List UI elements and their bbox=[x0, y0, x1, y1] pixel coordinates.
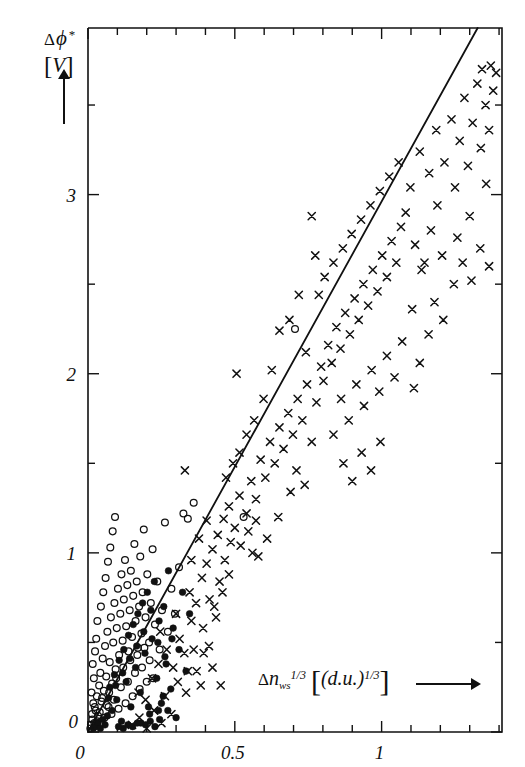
data-point bbox=[315, 291, 322, 298]
data-point bbox=[360, 281, 367, 288]
data-point bbox=[345, 417, 352, 424]
data-point bbox=[147, 600, 154, 607]
data-point bbox=[168, 585, 175, 592]
data-point bbox=[461, 94, 468, 101]
data-point bbox=[155, 639, 162, 646]
data-point bbox=[260, 395, 267, 402]
data-point bbox=[441, 159, 448, 166]
delta-glyph: Δ bbox=[258, 670, 269, 689]
data-point bbox=[147, 718, 154, 725]
data-point bbox=[425, 331, 432, 338]
series-cross bbox=[128, 62, 499, 732]
data-point bbox=[214, 531, 221, 538]
data-point bbox=[137, 553, 144, 560]
data-point bbox=[140, 628, 147, 635]
data-point bbox=[92, 648, 99, 655]
data-point bbox=[163, 646, 170, 653]
data-point bbox=[109, 528, 116, 535]
delta-glyph: Δ bbox=[44, 30, 56, 49]
data-point bbox=[252, 517, 259, 524]
data-point bbox=[275, 513, 282, 520]
data-point bbox=[440, 316, 447, 323]
data-point bbox=[125, 632, 132, 639]
data-point bbox=[107, 544, 114, 551]
data-point bbox=[308, 212, 315, 219]
x-axis-direction-arrow-icon bbox=[416, 683, 472, 685]
data-point bbox=[237, 542, 244, 549]
data-point bbox=[262, 474, 269, 481]
data-point bbox=[418, 266, 425, 273]
data-point bbox=[351, 295, 358, 302]
data-point bbox=[108, 614, 115, 621]
y-axis-label-symbol: Δϕ* bbox=[44, 28, 128, 49]
data-point bbox=[170, 664, 177, 671]
data-point bbox=[142, 696, 149, 703]
data-point bbox=[98, 603, 105, 610]
data-point bbox=[340, 460, 347, 467]
data-point bbox=[188, 556, 195, 563]
data-point bbox=[374, 288, 381, 295]
data-point bbox=[163, 661, 170, 668]
data-point bbox=[454, 234, 461, 241]
data-point bbox=[172, 610, 179, 617]
data-point bbox=[128, 704, 135, 711]
data-point bbox=[139, 600, 146, 607]
data-point bbox=[103, 702, 110, 709]
data-point bbox=[111, 671, 118, 678]
data-point bbox=[478, 66, 485, 73]
data-point bbox=[357, 216, 364, 223]
data-point bbox=[233, 370, 240, 377]
data-point bbox=[464, 162, 471, 169]
data-point bbox=[360, 402, 367, 409]
data-point bbox=[110, 639, 117, 646]
data-point bbox=[199, 625, 206, 632]
data-point bbox=[483, 180, 490, 187]
data-point bbox=[468, 277, 475, 284]
data-point bbox=[192, 599, 199, 606]
data-point bbox=[395, 159, 402, 166]
data-point bbox=[416, 359, 423, 366]
data-point bbox=[130, 621, 137, 628]
data-point bbox=[251, 417, 258, 424]
data-point bbox=[181, 467, 188, 474]
data-point bbox=[287, 488, 294, 495]
data-point bbox=[103, 673, 110, 680]
data-point bbox=[431, 298, 438, 305]
data-point bbox=[102, 575, 109, 582]
data-point bbox=[112, 514, 119, 521]
data-point bbox=[245, 528, 252, 535]
data-point bbox=[112, 682, 119, 689]
data-point bbox=[409, 306, 416, 313]
data-point bbox=[330, 259, 337, 266]
data-point bbox=[130, 592, 137, 599]
data-point bbox=[325, 341, 332, 348]
data-point bbox=[271, 460, 278, 467]
data-point bbox=[105, 558, 112, 565]
data-point bbox=[94, 618, 101, 625]
data-point bbox=[456, 137, 463, 144]
data-point bbox=[313, 399, 320, 406]
y-axis-direction-arrow-icon bbox=[63, 78, 65, 124]
data-point bbox=[337, 345, 344, 352]
data-point bbox=[168, 710, 175, 717]
data-point bbox=[120, 596, 127, 603]
data-point bbox=[118, 571, 125, 578]
data-point bbox=[410, 384, 417, 391]
data-point bbox=[102, 722, 109, 729]
data-point bbox=[346, 331, 353, 338]
data-point bbox=[358, 449, 365, 456]
data-point bbox=[127, 567, 134, 574]
y-axis-tick-label: 3 bbox=[66, 185, 77, 206]
data-point bbox=[386, 173, 393, 180]
data-point bbox=[139, 664, 146, 671]
data-point bbox=[132, 664, 139, 671]
data-point bbox=[203, 560, 210, 567]
data-point bbox=[407, 184, 414, 191]
data-point bbox=[225, 571, 232, 578]
data-point bbox=[123, 623, 130, 630]
data-point bbox=[320, 377, 327, 384]
data-point bbox=[115, 705, 122, 712]
data-point bbox=[450, 281, 457, 288]
data-point bbox=[377, 438, 384, 445]
data-point bbox=[123, 679, 130, 686]
